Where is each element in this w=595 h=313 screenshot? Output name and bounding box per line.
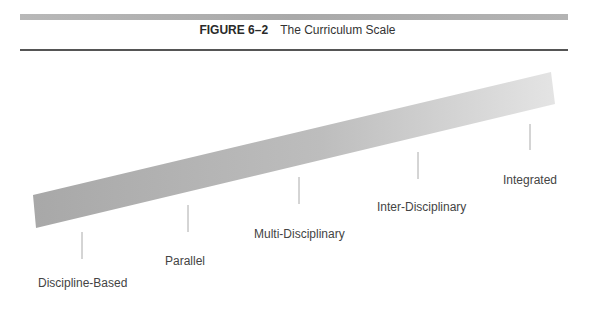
scale-point-label: Discipline-Based <box>38 276 127 290</box>
scale-point-label: Integrated <box>503 173 557 187</box>
scale-point-label: Inter-Disciplinary <box>377 200 466 214</box>
scale-point-label: Multi-Disciplinary <box>254 227 345 241</box>
scale-band <box>33 72 555 228</box>
curriculum-scale-diagram <box>0 0 595 313</box>
scale-point-label: Parallel <box>165 254 205 268</box>
